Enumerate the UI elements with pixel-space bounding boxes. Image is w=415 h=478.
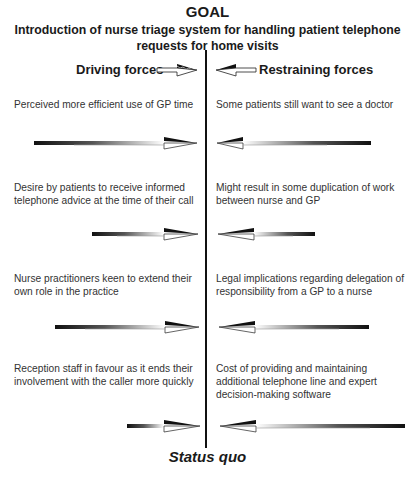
driving-arrow-1-icon [34,135,197,151]
restraining-arrow-1-icon [217,135,371,151]
driving-arrow-3-icon [55,319,199,335]
restraining-arrow-4-icon [220,418,405,434]
driving-forces-header: Driving forces [76,62,163,77]
driving-force-3: Nurse practitioners keen to extend their… [14,272,199,298]
restraining-arrow-3-icon [219,319,369,335]
restraining-forces-header: Restraining forces [259,62,373,77]
goal-label: GOAL [0,3,415,20]
driving-force-4: Reception staff in favour as it ends the… [14,362,199,388]
driving-header-arrow-icon [157,62,197,78]
driving-arrow-4-icon [127,418,200,434]
goal-description: Introduction of nurse triage system for … [10,22,405,54]
driving-arrow-2-icon [92,226,198,242]
center-divider-line [205,50,207,448]
status-quo-label: Status quo [0,448,415,465]
driving-force-1: Perceived more efficient use of GP time [14,98,199,111]
restraining-force-4: Cost of providing and maintaining additi… [216,362,411,401]
restraining-header-arrow-icon [216,62,256,78]
driving-force-2: Desire by patients to receive informed t… [14,181,199,207]
restraining-force-1: Some patients still want to see a doctor [216,98,411,111]
restraining-arrow-2-icon [218,226,315,242]
restraining-force-2: Might result in some duplication of work… [216,181,411,207]
restraining-force-3: Legal implications regarding delegation … [216,272,411,298]
